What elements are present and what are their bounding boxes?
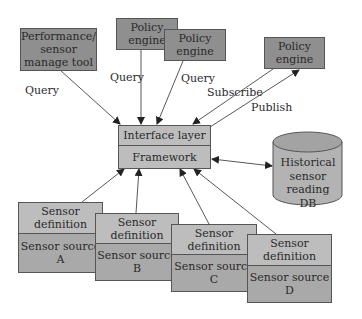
interface-layer-label: Interface layer <box>123 129 205 142</box>
sensor-b-definition: Sensor definition <box>96 214 178 244</box>
performance-tool-node: Performance/ sensor manage tool <box>20 28 97 71</box>
policy-engine-1-label: Policy engine <box>127 21 167 47</box>
sensor-b-source: Sensor source B <box>96 244 178 280</box>
arrow-query-policy2 <box>157 61 183 124</box>
interface-framework-node: Interface layer Framework <box>118 125 211 169</box>
framework-label: Framework <box>132 151 196 164</box>
sensor-node-a: Sensor definition Sensor source A <box>18 202 103 273</box>
policy-engine-node-2: Policy engine <box>164 29 226 61</box>
policy-engine-3-label: Policy engine <box>275 40 315 66</box>
edge-label-query-1: Query <box>25 84 59 97</box>
edge-label-query-2: Query <box>110 71 144 84</box>
edge-label-subscribe: Subscribe <box>207 86 263 99</box>
sensor-d-definition: Sensor definition <box>248 235 331 266</box>
performance-tool-label: Performance/ sensor manage tool <box>21 30 96 69</box>
interface-layer: Interface layer <box>119 126 210 146</box>
sensor-c-definition: Sensor definition <box>172 225 256 255</box>
database-label: Historical sensor reading DB <box>278 156 338 210</box>
sensor-node-d: Sensor definition Sensor source D <box>247 234 332 303</box>
arrow-sensor-a <box>82 169 124 202</box>
edge-label-publish: Publish <box>251 101 292 114</box>
sensor-d-source: Sensor source D <box>248 266 331 302</box>
framework-layer: Framework <box>119 146 210 168</box>
policy-engine-node-3: Policy engine <box>264 37 325 69</box>
sensor-a-source: Sensor source A <box>19 234 102 272</box>
edge-label-query-3: Query <box>181 72 215 85</box>
arrow-sensor-b <box>136 169 139 213</box>
sensor-a-definition: Sensor definition <box>19 203 102 234</box>
sensor-node-c: Sensor definition Sensor source C <box>171 224 257 292</box>
policy-engine-2-label: Policy engine <box>175 32 215 58</box>
sensor-c-source: Sensor source C <box>172 255 256 291</box>
arrow-db <box>212 159 272 166</box>
sensor-node-b: Sensor definition Sensor source B <box>95 213 179 281</box>
